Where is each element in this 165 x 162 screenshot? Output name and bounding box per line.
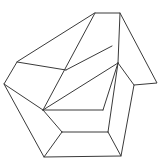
impossible-figure-canvas: Impossible Figure [0,0,165,162]
impossible-figure-svg: Impossible Figure [0,0,165,162]
